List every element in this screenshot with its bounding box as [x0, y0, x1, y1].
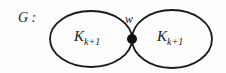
right-component-label: Kk+1: [157, 28, 183, 47]
graph-label: G :: [18, 10, 36, 26]
vertex-label: w: [125, 12, 133, 27]
left-component-label: Kk+1: [74, 28, 100, 47]
cut-vertex-dot: [127, 34, 137, 44]
graph-diagram: G : w Kk+1 Kk+1: [0, 0, 226, 73]
